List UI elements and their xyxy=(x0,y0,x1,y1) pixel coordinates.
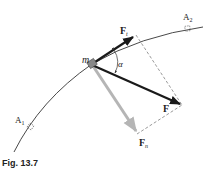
point-a2-marker xyxy=(185,26,191,32)
normal-force-label: Fn xyxy=(139,137,148,149)
diagram-canvas: m Ft F Fn α A1 A2 Fig. 13.7 xyxy=(0,0,217,174)
angle-alpha-label: α xyxy=(118,59,123,69)
mass-label: m xyxy=(82,54,89,65)
point-a1-label: A1 xyxy=(15,115,25,126)
tangential-force-vector xyxy=(92,37,133,64)
dashed-line-fn-to-f xyxy=(137,105,182,134)
figure-caption: Fig. 13.7 xyxy=(2,158,38,168)
point-a2-label: A2 xyxy=(183,12,193,23)
tangential-force-label: Ft xyxy=(120,25,128,37)
resultant-force-label: F xyxy=(163,103,169,114)
